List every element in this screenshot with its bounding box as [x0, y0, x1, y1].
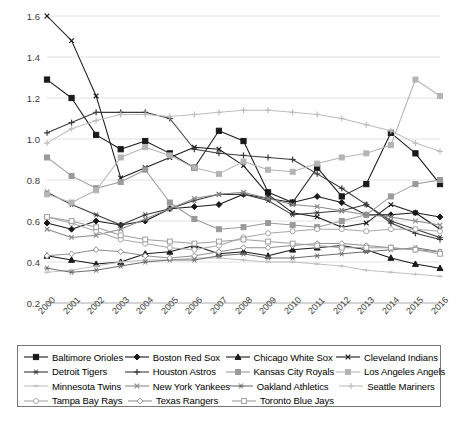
legend-item-oakland-athletics[interactable]: Oakland Athletics [228, 379, 338, 394]
legend-row: Minnesota TwinsNew York YankeesOakland A… [23, 379, 435, 394]
series-minnesota-twins [44, 256, 443, 278]
legend-symbol-triangle-filled-icon [225, 351, 251, 363]
legend-item-detroit-tigers[interactable]: Detroit Tigers [23, 365, 124, 380]
legend-item-baltimore-orioles[interactable]: Baltimore Orioles [23, 350, 124, 365]
legend-item-los-angeles-angels[interactable]: Los Angeles Angels [335, 365, 435, 380]
legend-label: Baltimore Orioles [52, 352, 123, 363]
y-axis-tick: 1.0 [27, 134, 40, 145]
legend-item-new-york-yankees[interactable]: New York Yankees [124, 379, 228, 394]
legend-symbol-dash-light-icon [23, 380, 49, 392]
y-axis-tick: 0.2 [27, 298, 40, 309]
legend-label: Minnesota Twins [52, 381, 121, 392]
legend-symbol-x-gray-icon [124, 380, 150, 392]
legend-symbol-square-open-icon [231, 395, 257, 407]
legend-label: Detroit Tigers [52, 366, 107, 377]
legend-label: Houston Astros [153, 366, 216, 377]
legend-row: Tampa Bay RaysTexas RangersToronto Blue … [23, 394, 435, 409]
legend-row: Detroit TigersHouston AstrosKansas City … [23, 365, 435, 380]
legend-item-chicago-white-sox[interactable]: Chicago White Sox [225, 350, 335, 365]
legend-symbol-asterisk-gray-icon [228, 380, 254, 392]
legend-symbol-diamond-filled-icon [124, 351, 150, 363]
legend-label: Cleveland Indians [364, 352, 438, 363]
chart-legend: Baltimore OriolesBoston Red SoxChicago W… [17, 345, 441, 407]
legend-item-cleveland-indians[interactable]: Cleveland Indians [335, 350, 435, 365]
legend-symbol-square-filled-icon [23, 351, 49, 363]
plot-svg: 0.20.40.60.81.01.21.41.6 [0, 0, 463, 320]
legend-label: Kansas City Royals [254, 366, 335, 377]
legend-label: Chicago White Sox [254, 352, 333, 363]
y-axis-tick: 0.8 [27, 175, 40, 186]
legend-item-boston-red-sox[interactable]: Boston Red Sox [124, 350, 225, 365]
legend-symbol-square-light-icon [335, 366, 361, 378]
legend-item-toronto-blue-jays[interactable]: Toronto Blue Jays [231, 394, 345, 409]
y-axis-tick: 1.6 [27, 11, 40, 22]
legend-symbol-diamond-open-icon [127, 395, 153, 407]
legend-item-minnesota-twins[interactable]: Minnesota Twins [23, 379, 124, 394]
legend-label: Toronto Blue Jays [260, 395, 334, 406]
legend-item-houston-astros[interactable]: Houston Astros [124, 365, 225, 380]
legend-label: New York Yankees [153, 381, 230, 392]
legend-label: Oakland Athletics [257, 381, 329, 392]
line-chart: 0.20.40.60.81.01.21.41.6 200020012002200… [0, 0, 463, 427]
legend-symbol-x-icon [335, 351, 361, 363]
y-axis-tick: 1.2 [27, 93, 40, 104]
series-cleveland-indians [45, 14, 443, 232]
y-axis-tick: 0.6 [27, 216, 40, 227]
legend-item-kansas-city-royals[interactable]: Kansas City Royals [225, 365, 335, 380]
legend-label: Los Angeles Angels [364, 366, 445, 377]
legend-row: Baltimore OriolesBoston Red SoxChicago W… [23, 350, 435, 365]
plot-area: 0.20.40.60.81.01.21.41.6 [0, 0, 463, 320]
legend-label: Seattle Mariners [367, 381, 435, 392]
legend-item-texas-rangers[interactable]: Texas Rangers [127, 394, 231, 409]
y-axis-tick: 0.4 [27, 257, 40, 268]
legend-symbol-circle-open-icon [23, 395, 49, 407]
legend-symbol-plus-light-icon [338, 380, 364, 392]
legend-item-tampa-bay-rays[interactable]: Tampa Bay Rays [23, 394, 127, 409]
legend-symbol-plus-icon [124, 366, 150, 378]
legend-symbol-square-gray-icon [225, 366, 251, 378]
y-axis-tick: 1.4 [27, 52, 40, 63]
legend-item-seattle-mariners[interactable]: Seattle Mariners [338, 379, 435, 394]
legend-label: Boston Red Sox [153, 352, 220, 363]
legend-symbol-asterisk-icon [23, 366, 49, 378]
legend-label: Tampa Bay Rays [52, 395, 122, 406]
legend-label: Texas Rangers [156, 395, 218, 406]
